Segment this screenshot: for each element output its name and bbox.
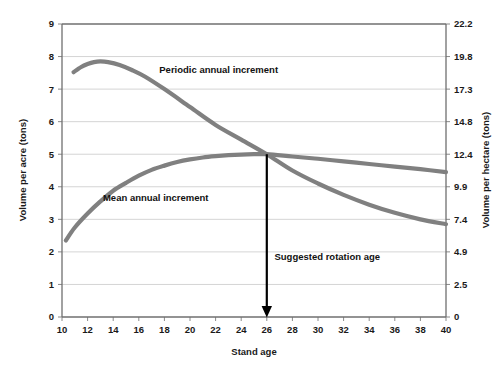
periodic-annual-increment-label: Periodic annual increment: [159, 64, 279, 75]
x-tick-label: 34: [364, 324, 375, 335]
x-tick-label: 16: [134, 324, 145, 335]
mean-annual-increment-label: Mean annual increment: [103, 192, 209, 203]
y-tick-label-right: 19.8: [454, 51, 473, 62]
y-tick-label-right: 14.8: [454, 116, 473, 127]
y-tick-label-right: 9.9: [454, 181, 467, 192]
y-tick-label-left: 8: [49, 51, 54, 62]
x-axis-title: Stand age: [231, 346, 276, 357]
x-tick-label: 38: [415, 324, 426, 335]
y-tick-label-right: 7.4: [454, 214, 468, 225]
x-tick-label: 26: [262, 324, 273, 335]
x-tick-label: 12: [82, 324, 93, 335]
y-tick-label-left: 9: [49, 18, 54, 29]
x-tick-label: 18: [159, 324, 170, 335]
y-tick-label-right: 2.5: [454, 279, 468, 290]
y-tick-label-left: 6: [49, 116, 54, 127]
suggested-rotation-age-label: Suggested rotation age: [274, 251, 380, 262]
x-tick-label: 40: [441, 324, 452, 335]
x-tick-label: 28: [287, 324, 298, 335]
y-tick-label-left: 0: [49, 311, 54, 322]
x-tick-label: 24: [236, 324, 247, 335]
y-tick-label-left: 7: [49, 84, 54, 95]
chart-container: 0123456789 02.54.97.49.912.414.817.319.8…: [0, 0, 504, 375]
x-tick-label: 20: [185, 324, 196, 335]
x-tick-label: 10: [57, 324, 68, 335]
y-tick-label-left: 5: [49, 149, 55, 160]
y-tick-label-left: 4: [49, 181, 55, 192]
x-tick-label: 32: [338, 324, 349, 335]
y-axis-left-title: Volume per acre (tons): [17, 119, 28, 221]
y-tick-label-right: 12.4: [454, 149, 473, 160]
y-tick-label-right: 17.3: [454, 84, 473, 95]
growth-increment-chart: 0123456789 02.54.97.49.912.414.817.319.8…: [0, 0, 504, 375]
y-tick-label-left: 1: [49, 279, 55, 290]
y-tick-label-right: 22.2: [454, 18, 473, 29]
x-tick-label: 36: [390, 324, 401, 335]
x-tick-label: 30: [313, 324, 324, 335]
x-tick-label: 22: [210, 324, 221, 335]
x-tick-label: 14: [108, 324, 119, 335]
y-tick-label-left: 3: [49, 214, 54, 225]
y-tick-label-left: 2: [49, 246, 54, 257]
y-tick-label-right: 0: [454, 311, 459, 322]
y-tick-label-right: 4.9: [454, 246, 467, 257]
y-axis-right-title: Volume per hectare (tons): [480, 112, 491, 229]
